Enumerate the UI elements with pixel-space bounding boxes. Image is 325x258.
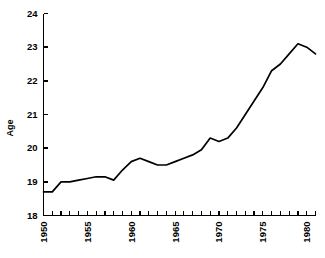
y-axis-tick-label: 22: [27, 75, 38, 86]
y-axis-tick-label: 19: [27, 176, 38, 187]
y-axis-tick-label: 24: [27, 8, 38, 19]
y-axis-tick-label: 18: [27, 210, 38, 221]
y-axis-title: Age: [5, 119, 15, 136]
y-axis-tick-label: 21: [27, 109, 38, 120]
chart-container: 1819202122232419501955196019651970197519…: [0, 0, 325, 258]
x-axis-tick-label: 1970: [213, 222, 224, 243]
x-axis-tick-label: 1950: [38, 222, 49, 243]
y-axis-tick-label: 20: [27, 142, 38, 153]
y-axis-tick-label: 23: [27, 41, 38, 52]
x-axis-tick-label: 1975: [257, 221, 268, 243]
x-axis-tick-label: 1955: [82, 221, 93, 243]
x-axis-tick-label: 1965: [170, 221, 181, 243]
line-chart: 1819202122232419501955196019651970197519…: [0, 0, 325, 258]
x-axis-tick-label: 1980: [301, 222, 312, 243]
x-axis-tick-label: 1960: [126, 222, 137, 243]
data-series-line: [44, 44, 316, 192]
